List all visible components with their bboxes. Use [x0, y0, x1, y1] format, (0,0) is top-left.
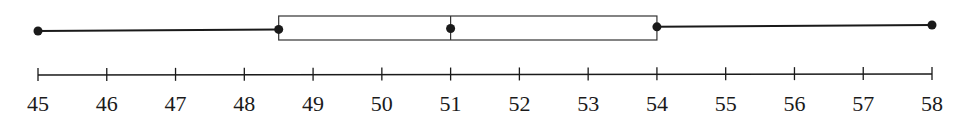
max-point: [928, 21, 937, 30]
tick-label: 52: [508, 91, 530, 116]
box: [279, 16, 657, 40]
tick-label: 54: [646, 91, 668, 116]
iqr-box: [279, 16, 657, 40]
tick-label: 45: [27, 91, 49, 116]
tick-label: 49: [302, 91, 324, 116]
box-plot: 4546474849505152535455565758: [0, 0, 970, 121]
right-whisker: [657, 25, 932, 27]
tick-label: 51: [440, 91, 462, 116]
tick-label: 58: [921, 91, 943, 116]
tick-label: 46: [96, 91, 118, 116]
left-whisker: [38, 29, 279, 31]
axis-line: [38, 74, 932, 75]
tick-label: 53: [577, 91, 599, 116]
median-point: [446, 24, 455, 33]
tick-label: 48: [233, 91, 255, 116]
tick-label: 50: [371, 91, 393, 116]
five-number-points: [34, 21, 937, 36]
tick-label: 47: [165, 91, 187, 116]
tick-label: 56: [783, 91, 805, 116]
whiskers: [38, 25, 932, 31]
x-axis: 4546474849505152535455565758: [27, 67, 943, 116]
q1-point: [274, 25, 283, 34]
q3-point: [652, 22, 661, 31]
tick-label: 57: [852, 91, 874, 116]
tick-label: 55: [715, 91, 737, 116]
min-point: [34, 27, 43, 36]
